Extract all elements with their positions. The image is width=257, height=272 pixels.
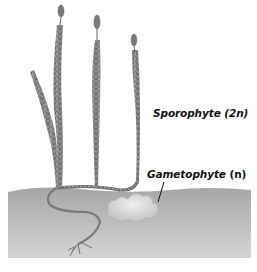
gametophyte-name: Gametophyte [147,168,226,180]
diagram-canvas: Sporophyte (2n) Gametophyte (n) [0,0,257,272]
strobilus-1 [58,5,64,17]
sporophyte-ploidy: (2n) [224,107,248,119]
sporophyte-name: Sporophyte [153,107,221,119]
strobilus-3 [131,34,137,46]
sporophyte-shoots [30,25,140,188]
club-moss-illustration [0,0,257,272]
gametophyte-label: Gametophyte (n) [147,168,246,180]
sporophyte-label: Sporophyte (2n) [153,107,248,119]
gametophyte-ploidy: (n) [229,168,246,180]
strobilus-2 [94,15,100,29]
